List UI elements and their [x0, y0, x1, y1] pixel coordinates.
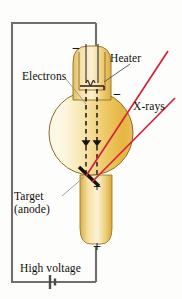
xray-tube-figure: Heater Electrons X-rays Target (anode) H…: [0, 0, 182, 299]
xray-tube-diagram: [0, 0, 182, 299]
polarity-plus-bottom: +: [93, 242, 101, 252]
label-target-anode: (anode): [14, 203, 50, 215]
label-high-voltage: High voltage: [20, 262, 81, 274]
polarity-minus-cathode-top: −: [72, 44, 80, 54]
polarity-plus-target: +: [93, 182, 101, 192]
label-target: Target: [14, 190, 44, 202]
label-heater: Heater: [110, 52, 141, 64]
label-electrons: Electrons: [22, 70, 66, 82]
label-xrays: X-rays: [133, 100, 165, 112]
polarity-minus-cathode-side: −: [113, 90, 121, 100]
